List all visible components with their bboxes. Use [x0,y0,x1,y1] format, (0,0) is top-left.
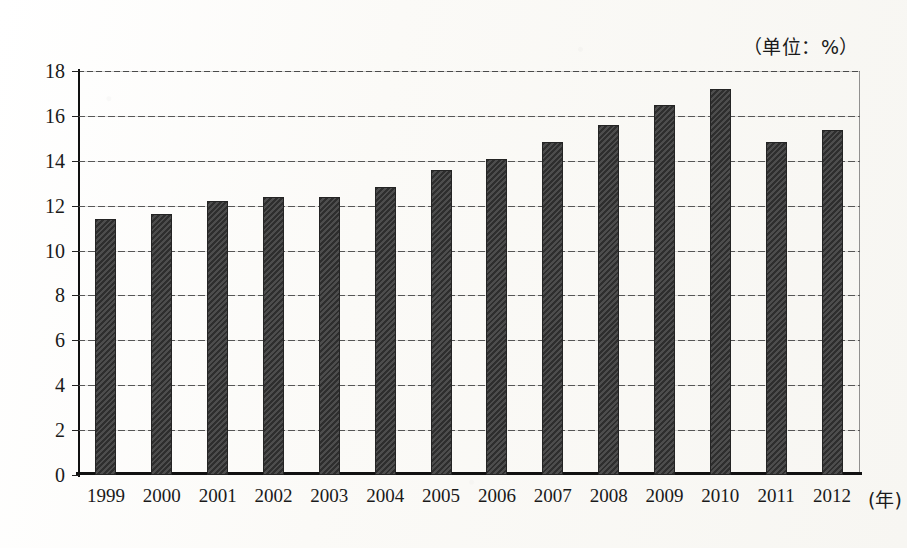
x-tick-label-2010: 2010 [701,485,739,507]
x-tick-label-2000: 2000 [143,485,181,507]
y-tick-label-8: 8 [55,285,65,305]
plot-area: 181614121086420 199920002001200220032004… [78,71,860,475]
x-tick-label-1999: 1999 [87,485,125,507]
y-tick-0 [72,475,79,476]
y-tick-label-4: 4 [55,375,65,395]
gridline-8 [78,295,860,296]
bar-2010 [710,89,731,475]
y-tick-14 [72,161,79,162]
bar-2001 [207,201,228,475]
bar-2003 [319,197,340,475]
y-tick-label-18: 18 [45,61,65,81]
y-tick-label-2: 2 [55,420,65,440]
y-tick-4 [72,385,79,386]
x-tick-label-2003: 2003 [310,485,348,507]
gridline-4 [78,385,860,386]
x-axis-line [76,472,862,475]
y-tick-label-10: 10 [45,241,65,261]
bar-2005 [431,170,452,475]
y-axis-line [78,69,80,477]
y-tick-10 [72,251,79,252]
bar-2009 [654,105,675,475]
bar-2004 [375,187,396,475]
y-tick-label-16: 16 [45,106,65,126]
gridline-2 [78,430,860,431]
y-tick-label-0: 0 [55,465,65,485]
y-tick-18 [72,71,79,72]
bar-1999 [95,219,116,475]
unit-label: （单位：%） [743,32,859,59]
y-tick-12 [72,206,79,207]
y-tick-2 [72,430,79,431]
bar-chart: （单位：%） 181614121086420 19992000200120022… [0,0,907,548]
x-tick-label-2001: 2001 [199,485,237,507]
x-tick-label-2005: 2005 [422,485,460,507]
x-tick-label-2011: 2011 [758,485,795,507]
bar-2011 [766,142,787,475]
gridline-12 [78,206,860,207]
y-tick-label-12: 12 [45,196,65,216]
bar-2012 [822,130,843,475]
y-tick-8 [72,295,79,296]
bar-2008 [598,125,619,475]
bar-2006 [486,159,507,475]
plot-right-border [859,71,860,475]
y-tick-label-14: 14 [45,151,65,171]
gridline-10 [78,251,860,252]
x-axis-title: (年) [868,485,902,512]
x-tick-label-2007: 2007 [534,485,572,507]
gridline-16 [78,116,860,117]
x-tick-label-2002: 2002 [255,485,293,507]
gridline-6 [78,340,860,341]
y-tick-6 [72,340,79,341]
x-tick-label-2004: 2004 [366,485,404,507]
x-tick-label-2006: 2006 [478,485,516,507]
plot-top-border [78,71,860,72]
x-tick-label-2012: 2012 [813,485,851,507]
gridline-14 [78,161,860,162]
y-tick-label-6: 6 [55,330,65,350]
y-tick-16 [72,116,79,117]
bar-2002 [263,197,284,475]
bar-2000 [151,214,172,475]
x-tick-label-2009: 2009 [646,485,684,507]
bar-2007 [542,142,563,475]
x-tick-label-2008: 2008 [590,485,628,507]
